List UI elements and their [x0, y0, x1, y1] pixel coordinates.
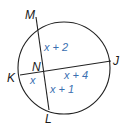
- segment-label-NJ: x + 4: [63, 69, 88, 81]
- point-label-N: N: [32, 60, 41, 74]
- segment-label-NL: x + 1: [49, 83, 74, 95]
- point-label-J: J: [112, 54, 120, 68]
- segment-label-KN: x: [29, 74, 36, 86]
- point-label-M: M: [25, 8, 35, 22]
- point-label-K: K: [7, 71, 16, 85]
- segment-label-MN: x + 2: [43, 41, 68, 53]
- point-label-L: L: [45, 112, 52, 126]
- circle-chords-diagram: M J K L N x + 2 x + 4 x x + 1: [0, 0, 126, 127]
